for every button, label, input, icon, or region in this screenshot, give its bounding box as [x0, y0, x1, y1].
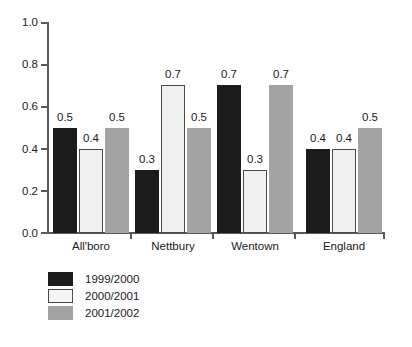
x-axis-tick: [212, 233, 214, 239]
bar-wentown-series1: [217, 85, 241, 233]
bar-value-label: 0.5: [49, 111, 81, 123]
bar-value-label: 0.7: [157, 68, 189, 80]
legend-swatch-icon: [48, 306, 73, 320]
bar-value-label: 0.5: [354, 111, 386, 123]
bar-value-label: 0.3: [239, 153, 271, 165]
x-axis-tick: [383, 233, 385, 239]
bar-value-label: 0.4: [75, 132, 107, 144]
bar-nettbury-series3: [187, 128, 211, 234]
bar-nettbury-series2: [161, 85, 185, 233]
x-axis-group-label: England: [294, 240, 394, 252]
bar-all-boro-series1: [53, 128, 77, 234]
x-axis-group-label: Wentown: [205, 240, 305, 252]
bar-value-label: 0.4: [328, 132, 360, 144]
y-axis-tick-label: 0.0: [8, 227, 38, 239]
legend: 1999/2000 2000/2001 2001/2002: [48, 270, 139, 321]
bar-value-label: 0.3: [131, 153, 163, 165]
legend-item-label: 1999/2000: [85, 273, 139, 285]
legend-swatch-icon: [48, 272, 73, 286]
legend-item-label: 2000/2001: [85, 290, 139, 302]
bar-chart: 1.0 0.8 0.6 0.4 0.2 0.0 0.50.40.50.30.70…: [0, 0, 412, 347]
bar-wentown-series3: [269, 85, 293, 233]
bar-england-series2: [332, 149, 356, 233]
legend-item: 1999/2000: [48, 270, 139, 287]
x-axis-tick: [130, 233, 132, 239]
legend-item: 2000/2001: [48, 287, 139, 304]
bar-value-label: 0.5: [183, 111, 215, 123]
bar-value-label: 0.7: [265, 68, 297, 80]
x-axis-tick: [294, 233, 296, 239]
y-axis-tick-label: 1.0: [8, 16, 38, 28]
legend-item-label: 2001/2002: [85, 307, 139, 319]
y-axis-tick-label: 0.4: [8, 143, 38, 155]
legend-swatch-icon: [48, 289, 73, 303]
y-axis-tick-label: 0.6: [8, 100, 38, 112]
y-axis-tick-label: 0.8: [8, 58, 38, 70]
bar-value-label: 0.5: [101, 111, 133, 123]
bar-england-series3: [358, 128, 382, 234]
bar-all-boro-series3: [105, 128, 129, 234]
bar-wentown-series2: [243, 170, 267, 233]
y-axis-tick-label: 0.2: [8, 185, 38, 197]
legend-item: 2001/2002: [48, 304, 139, 321]
plot-area: 0.50.40.50.30.70.50.70.30.70.40.40.5: [48, 22, 385, 233]
bar-nettbury-series1: [135, 170, 159, 233]
bar-england-series1: [306, 149, 330, 233]
bar-value-label: 0.7: [213, 68, 245, 80]
bar-all-boro-series2: [79, 149, 103, 233]
